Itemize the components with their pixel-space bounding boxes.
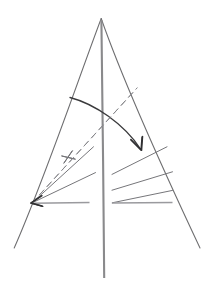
sketch-canvas bbox=[0, 0, 216, 284]
right-fan-mid bbox=[112, 172, 173, 190]
left-fan-upper bbox=[32, 147, 93, 203]
right-leg bbox=[101, 19, 200, 249]
right-base-riser bbox=[112, 190, 172, 202]
left-fan-mid bbox=[32, 173, 95, 203]
swing-arc bbox=[70, 98, 141, 150]
right-fan-upper bbox=[112, 147, 167, 175]
tripod-diagram-svg bbox=[0, 0, 216, 284]
left-base-line bbox=[33, 203, 90, 204]
dashed-diagonal bbox=[32, 88, 137, 203]
centre-mast bbox=[101, 20, 104, 278]
left-leg bbox=[14, 19, 101, 249]
